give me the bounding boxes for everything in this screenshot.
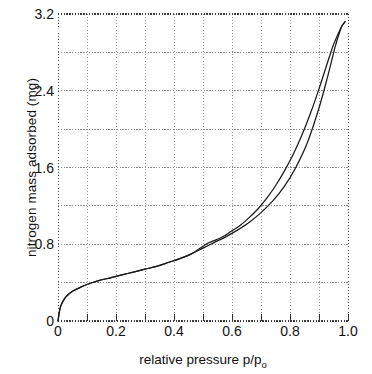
series-line-desorption	[58, 22, 345, 321]
data-series-group	[58, 22, 345, 321]
figure-container: nitrogen mass adsorbed (mg) 00.81.62.43.…	[0, 0, 372, 374]
tick-marks	[58, 314, 348, 321]
series-line-adsorption	[58, 22, 345, 321]
grid-lines	[58, 14, 348, 321]
plot-area	[0, 0, 372, 374]
